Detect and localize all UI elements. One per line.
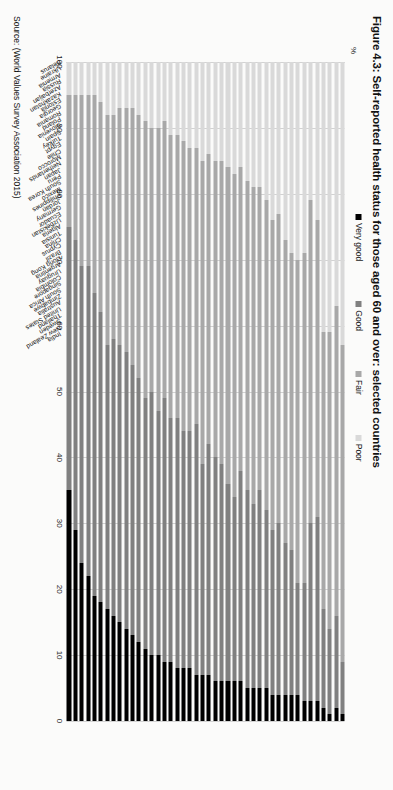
bar-segment xyxy=(79,62,83,95)
bar-segment xyxy=(98,312,102,602)
bar-segment xyxy=(219,161,223,464)
chart-legend: Very goodGoodFairPoor xyxy=(353,214,363,462)
bar-segment xyxy=(67,95,71,227)
bar-row xyxy=(251,62,255,721)
bar-segment xyxy=(289,550,293,695)
bar-segment xyxy=(302,253,306,583)
bar-segment xyxy=(257,187,261,490)
bar-segment xyxy=(181,62,185,141)
bar-segment xyxy=(245,181,249,491)
bar-row xyxy=(124,62,128,721)
bar-segment xyxy=(321,708,325,721)
legend-item: Very good xyxy=(353,214,363,261)
bar-segment xyxy=(194,62,198,148)
bar-segment xyxy=(245,688,249,721)
plot-area xyxy=(66,62,344,721)
bar-segment xyxy=(206,444,210,675)
bar-segment xyxy=(302,701,306,721)
bar-segment xyxy=(270,220,274,530)
bar-segment xyxy=(334,708,338,721)
bar-segment xyxy=(295,62,299,260)
bar-segment xyxy=(143,398,147,648)
bar-segment xyxy=(136,115,140,379)
bar-segment xyxy=(340,62,344,345)
legend-label: Fair xyxy=(353,380,363,395)
axis-unit-label: % xyxy=(348,47,357,54)
bar-segment xyxy=(340,714,344,721)
bar-segment xyxy=(315,220,319,517)
legend-swatch-icon xyxy=(355,371,361,377)
legend-item: Fair xyxy=(353,371,363,395)
bar-row xyxy=(219,62,223,721)
bar-segment xyxy=(289,253,293,550)
bar-segment xyxy=(257,688,261,721)
bar-segment xyxy=(270,695,274,721)
bar-segment xyxy=(295,695,299,721)
bar-segment xyxy=(213,161,217,458)
bar-row xyxy=(245,62,249,721)
bar-segment xyxy=(289,62,293,253)
bar-segment xyxy=(175,62,179,134)
bar-segment xyxy=(200,675,204,721)
bar-row xyxy=(302,62,306,721)
bar-segment xyxy=(149,392,153,656)
bar-segment xyxy=(168,62,172,134)
bar-row xyxy=(283,62,287,721)
bar-segment xyxy=(117,622,121,721)
bar-row xyxy=(73,62,77,721)
bar-segment xyxy=(238,167,242,470)
bar-segment xyxy=(92,95,96,293)
bar-segment xyxy=(206,154,210,444)
bar-row xyxy=(117,62,121,721)
bar-segment xyxy=(334,306,338,616)
bar-segment xyxy=(162,62,166,121)
bar-row xyxy=(105,62,109,721)
bar-segment xyxy=(295,260,299,583)
bar-row xyxy=(264,62,268,721)
figure-page: Figure 4.3: Self-reported health status … xyxy=(0,0,393,790)
bar-segment xyxy=(181,141,185,431)
legend-swatch-icon xyxy=(355,435,361,441)
bar-segment xyxy=(321,332,325,609)
bar-segment xyxy=(105,115,109,346)
legend-swatch-icon xyxy=(355,214,361,220)
bar-segment xyxy=(187,668,191,721)
bar-row xyxy=(225,62,229,721)
bar-segment xyxy=(213,457,217,681)
bar-segment xyxy=(225,62,229,167)
bar-row xyxy=(187,62,191,721)
bar-row xyxy=(257,62,261,721)
bar-segment xyxy=(251,688,255,721)
bar-segment xyxy=(86,62,90,95)
bar-segment xyxy=(124,629,128,721)
bar-segment xyxy=(219,62,223,161)
bar-row xyxy=(149,62,153,721)
bar-segment xyxy=(194,424,198,674)
bar-segment xyxy=(73,62,77,95)
bar-segment xyxy=(257,62,261,187)
bar-segment xyxy=(321,62,325,332)
bar-segment xyxy=(149,62,153,128)
bar-segment xyxy=(225,167,229,483)
bar-segment xyxy=(111,62,115,115)
bar-segment xyxy=(308,62,312,200)
bar-segment xyxy=(194,675,198,721)
bar-segment xyxy=(219,464,223,681)
bar-segment xyxy=(245,62,249,181)
bar-segment xyxy=(130,108,134,365)
bar-segment xyxy=(187,431,191,668)
bar-row xyxy=(92,62,96,721)
bar-segment xyxy=(283,240,287,543)
bar-segment xyxy=(238,62,242,167)
bar-segment xyxy=(149,655,153,721)
bar-segment xyxy=(194,148,198,425)
bar-segment xyxy=(143,121,147,398)
bar-segment xyxy=(238,471,242,682)
bar-segment xyxy=(308,701,312,721)
bar-segment xyxy=(283,62,287,240)
bar-segment xyxy=(315,62,319,220)
bar-segment xyxy=(251,187,255,503)
bar-segment xyxy=(232,62,236,174)
bar-segment xyxy=(79,266,83,563)
bar-segment xyxy=(124,62,128,108)
